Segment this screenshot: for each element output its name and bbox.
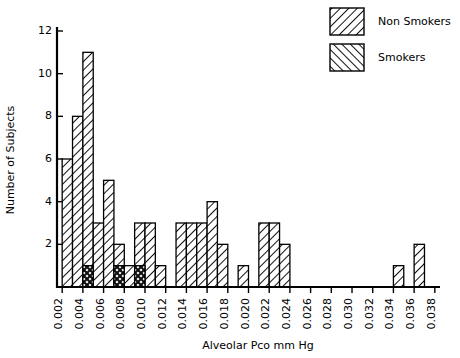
y-tick-label: 8 [45, 109, 52, 122]
bar-non-smokers [186, 223, 196, 287]
bar-non-smokers [62, 159, 72, 287]
bar-smokers [83, 266, 93, 287]
x-tick-label: 0.036 [404, 298, 417, 330]
legend-label-non-smokers: Non Smokers [378, 15, 451, 28]
x-tick-label: 0.026 [301, 298, 314, 330]
x-tick-label: 0.028 [321, 298, 334, 330]
y-tick-label: 4 [45, 195, 52, 208]
histogram-figure: Non SmokersSmokers 0.0020.0040.0060.0080… [0, 0, 460, 358]
bar-smokers [135, 266, 145, 287]
y-tick-label: 10 [38, 67, 52, 80]
x-tick-label: 0.032 [363, 298, 376, 330]
x-tick-label: 0.034 [383, 298, 396, 330]
bar-non-smokers [259, 223, 269, 287]
bar-non-smokers [124, 266, 134, 287]
x-tick-label: 0.024 [280, 298, 293, 330]
x-tick-label: 0.002 [52, 298, 65, 330]
bar-non-smokers [414, 244, 424, 287]
y-tick-label: 6 [45, 152, 52, 165]
bar-non-smokers [155, 266, 165, 287]
bar-non-smokers [83, 52, 93, 287]
bar-non-smokers [73, 116, 83, 287]
bar-non-smokers [145, 223, 155, 287]
x-tick-label: 0.020 [239, 298, 252, 330]
bar-smokers [114, 266, 124, 287]
bar-non-smokers [176, 223, 186, 287]
x-tick-label: 0.014 [176, 298, 189, 330]
legend-label-smokers: Smokers [378, 51, 426, 64]
legend-swatch-smokers [330, 44, 364, 71]
x-tick-label: 0.006 [94, 298, 107, 330]
bars-non-smokers [62, 52, 424, 287]
x-tick-label: 0.010 [135, 298, 148, 330]
y-axis-ticks: 24681012 [38, 24, 63, 250]
x-tick-label: 0.022 [259, 298, 272, 330]
bar-non-smokers [197, 223, 207, 287]
bars-smokers [83, 266, 145, 287]
chart-canvas: Non SmokersSmokers 0.0020.0040.0060.0080… [0, 0, 460, 358]
legend: Non SmokersSmokers [330, 8, 451, 71]
x-tick-label: 0.008 [114, 298, 127, 330]
x-tick-label: 0.038 [425, 298, 438, 330]
bar-non-smokers [280, 244, 290, 287]
x-tick-label: 0.016 [197, 298, 210, 330]
bar-non-smokers [269, 223, 279, 287]
bar-non-smokers [238, 266, 248, 287]
bar-non-smokers [393, 266, 403, 287]
bar-non-smokers [207, 202, 217, 287]
bar-non-smokers [93, 223, 103, 287]
x-axis-title: Alveolar Pco mm Hg [202, 339, 314, 352]
y-axis-title: Number of Subjects [4, 105, 17, 214]
bar-non-smokers [217, 244, 227, 287]
legend-swatch-non-smokers [330, 8, 364, 35]
y-tick-label: 2 [45, 237, 52, 250]
x-tick-label: 0.030 [342, 298, 355, 330]
x-tick-label: 0.018 [218, 298, 231, 330]
y-tick-label: 12 [38, 24, 52, 37]
x-tick-label: 0.004 [73, 298, 86, 330]
x-tick-label: 0.012 [156, 298, 169, 330]
bar-non-smokers [104, 180, 114, 287]
x-axis-ticks: 0.0020.0040.0060.0080.0100.0120.0140.016… [52, 287, 438, 330]
